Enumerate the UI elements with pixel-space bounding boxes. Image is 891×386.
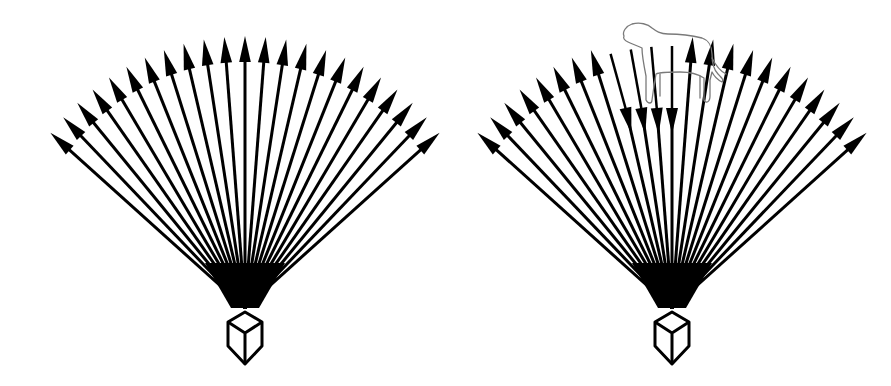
- ray-arrowhead-icon: [363, 77, 381, 102]
- ray-arrowhead-icon: [740, 50, 753, 77]
- reflected-arrowhead-icon: [666, 108, 678, 134]
- ray-arrowhead-icon: [126, 67, 143, 93]
- ray-arrowhead-icon: [145, 58, 160, 84]
- ray-arrowhead-icon: [572, 58, 587, 84]
- ray-arrowhead-icon: [378, 90, 398, 115]
- reflected-arrowhead-icon: [620, 107, 632, 134]
- ray-fan: [477, 37, 866, 308]
- sensor-cube-icon: [655, 312, 689, 364]
- ray-arrowhead-icon: [184, 44, 196, 71]
- ray-arrowhead-icon: [722, 44, 734, 71]
- panel-right-occluded: [477, 23, 866, 364]
- ray-shaft-behind-object: [611, 54, 626, 108]
- diagram-canvas: [0, 0, 891, 386]
- ray-arrowhead-icon: [277, 40, 288, 67]
- reflected-arrowhead-icon: [635, 107, 647, 134]
- ray-convergence: [632, 263, 712, 308]
- ray-arrowhead-icon: [536, 77, 554, 102]
- ray-arrowhead-icon: [239, 36, 251, 62]
- ray-arrowhead-icon: [93, 90, 113, 115]
- panel-left-unobstructed: [50, 36, 439, 364]
- ray-arrowhead-icon: [295, 44, 307, 71]
- ray-convergence: [205, 263, 285, 308]
- ray-arrowhead-icon: [553, 67, 570, 93]
- ray-arrowhead-icon: [109, 77, 127, 102]
- ray-arrowhead-icon: [221, 37, 233, 63]
- ray-arrowhead-icon: [258, 37, 270, 63]
- ray-arrowhead-icon: [805, 90, 825, 115]
- ray-arrowhead-icon: [790, 77, 808, 102]
- ray-arrowhead-icon: [685, 37, 697, 63]
- ray-arrowhead-icon: [164, 50, 177, 77]
- ray-arrowhead-icon: [313, 50, 326, 77]
- reflected-arrowhead-icon: [651, 108, 663, 134]
- ray-arrowhead-icon: [330, 58, 345, 84]
- ray-arrowhead-icon: [774, 67, 791, 93]
- ray-fan: [50, 36, 439, 308]
- sensor-cube-icon: [228, 312, 262, 364]
- ray-arrowhead-icon: [757, 58, 772, 84]
- ray-arrowhead-icon: [347, 67, 364, 93]
- ray-arrowhead-icon: [202, 40, 213, 67]
- ray-arrowhead-icon: [520, 90, 540, 115]
- ray-arrowhead-icon: [591, 50, 604, 77]
- ray-shaft-behind-object: [631, 50, 642, 108]
